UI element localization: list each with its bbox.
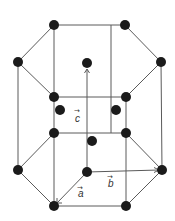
b-vector (87, 168, 159, 173)
label-b: → b (107, 173, 114, 189)
svg-text:a: a (78, 188, 84, 199)
c-vector (85, 69, 90, 172)
svg-text:b: b (108, 178, 114, 189)
label-c: → c (74, 107, 80, 124)
vertical-edges (18, 25, 162, 206)
label-a: → a (77, 184, 84, 199)
svg-text:c: c (75, 113, 80, 124)
corner-atoms (13, 20, 167, 211)
hcp-unit-cell-diagram: → c → b → a (0, 0, 175, 221)
